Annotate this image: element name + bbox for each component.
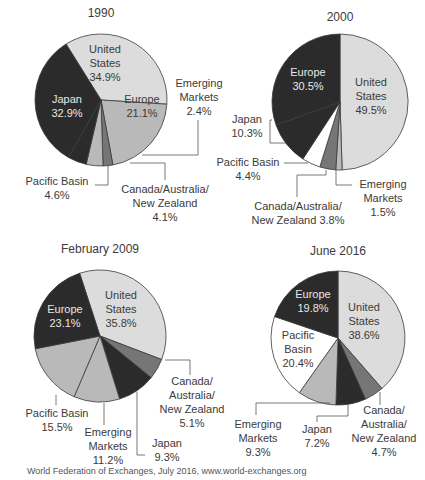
slice-label: PacificBasin20.4% [282, 329, 315, 369]
slice-label: Pacific Basin4.4% [217, 156, 280, 182]
leader-line [165, 360, 190, 375]
slice-label: Pacific Basin15.5% [26, 407, 89, 433]
slice-label: UnitedStates49.5% [355, 76, 387, 116]
pie-chart-june-2016: June 2016Europe19.8%UnitedStates38.6%Pac… [234, 244, 416, 458]
slice-label: Japan9.3% [152, 437, 182, 463]
leader-line [317, 404, 348, 422]
slice-label: EmergingMarkets2.4% [175, 77, 222, 117]
slice-label: Canada/Australia/New Zealand5.1% [160, 375, 225, 429]
slice-label: EmergingMarkets1.5% [359, 178, 406, 218]
pie-chart-1990: 1990UnitedStates34.9%Europe21.1%Japan32.… [26, 6, 223, 223]
slice-label: Japan7.2% [302, 423, 332, 449]
leader-line [137, 392, 145, 455]
leader-line [256, 403, 330, 415]
leader-line [130, 163, 165, 180]
leader-line [336, 170, 352, 185]
pie-chart-february-2009: February 2009Europe23.1%UnitedStates35.8… [26, 242, 225, 466]
slice-label: EmergingMarkets11.2% [84, 426, 131, 466]
slice-label: EmergingMarkets9.3% [234, 418, 281, 458]
slice-label: Canada/Australia/New Zealand 3.8% [252, 200, 345, 226]
stock-market-pie-charts: 1990UnitedStates34.9%Europe21.1%Japan32.… [0, 0, 425, 480]
leader-line [297, 170, 326, 197]
source-caption: World Federation of Exchanges, July 2016… [27, 466, 306, 476]
slice-label: UnitedStates38.6% [348, 301, 380, 341]
slice-label: Pacific Basin4.6% [26, 175, 89, 201]
leader-line [95, 166, 108, 185]
pie-title: June 2016 [310, 244, 366, 258]
pie-title: 1990 [88, 6, 115, 20]
slice-label: UnitedStates35.8% [105, 289, 137, 329]
pie-title: February 2009 [61, 242, 139, 256]
slice-label: UnitedStates34.9% [89, 43, 121, 83]
slice-label: Canada/Australia/New Zealand4.7% [352, 404, 417, 458]
pie-title: 2000 [327, 10, 354, 24]
slice-label: Canada/Australia/New Zealand4.1% [121, 183, 209, 223]
pie-chart-2000: 2000Europe30.5%UnitedStates49.5%Japan10.… [217, 10, 409, 226]
slice-label: Japan10.3% [231, 113, 262, 139]
